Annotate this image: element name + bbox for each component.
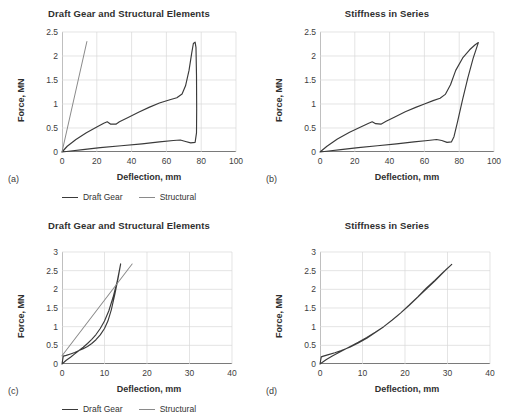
legend-line-draft-gear-icon <box>62 409 78 410</box>
plot-svg-d <box>320 252 490 364</box>
plot-area-b <box>320 32 494 152</box>
x-tick-label: 60 <box>420 156 429 166</box>
x-tick-label: 10 <box>100 368 109 378</box>
legend-label-structural: Structural <box>160 404 196 414</box>
y-axis-ticks-d: 00.511.522.53 <box>286 252 316 364</box>
x-tick-label: 40 <box>385 156 394 166</box>
x-axis-ticks-c: 010203040 <box>62 368 232 382</box>
series-line-structural <box>62 264 132 356</box>
x-axis-label-a: Deflection, mm <box>0 172 258 182</box>
y-axis-label-b: Force, MN <box>274 78 284 122</box>
x-tick-label: 10 <box>358 368 367 378</box>
x-axis-ticks-d: 010203040 <box>320 368 490 382</box>
y-axis-label-a: Force, MN <box>16 78 26 122</box>
y-tick-label: 1 <box>53 99 58 109</box>
y-tick-label: 2.5 <box>46 27 58 37</box>
x-tick-label: 80 <box>196 156 205 166</box>
y-axis-label-d: Force, MN <box>274 294 284 338</box>
legend-item-draft-gear-c: Draft Gear <box>62 404 123 414</box>
x-tick-label: 100 <box>229 156 243 166</box>
y-tick-label: 1.5 <box>304 303 316 313</box>
x-tick-label: 0 <box>318 368 323 378</box>
y-tick-label: 0 <box>53 359 58 369</box>
y-tick-label: 0.5 <box>46 123 58 133</box>
plot-svg-c <box>62 252 232 364</box>
plot-svg-a <box>62 32 236 152</box>
y-tick-label: 1.5 <box>46 303 58 313</box>
legend-a: Draft Gear Structural <box>0 192 258 202</box>
legend-item-draft-gear-a: Draft Gear <box>62 192 123 202</box>
legend-line-structural-icon <box>139 409 155 410</box>
x-axis-ticks-a: 020406080100 <box>62 156 236 170</box>
y-axis-ticks-b: 00.511.522.5 <box>286 32 316 152</box>
plot-area-d <box>320 252 490 364</box>
x-tick-label: 20 <box>400 368 409 378</box>
y-axis-ticks-a: 00.511.522.5 <box>28 32 58 152</box>
y-tick-label: 2.5 <box>304 27 316 37</box>
legend-line-structural-icon <box>139 197 155 198</box>
plot-area-c <box>62 252 232 364</box>
y-tick-label: 2 <box>311 284 316 294</box>
legend-line-draft-gear-icon <box>62 197 78 198</box>
y-tick-label: 1 <box>311 322 316 332</box>
y-tick-label: 0 <box>311 147 316 157</box>
series-line-draft-gear <box>62 264 121 364</box>
plot-svg-b <box>320 32 494 152</box>
x-axis-label-b: Deflection, mm <box>258 172 516 182</box>
chart-title-b: Stiffness in Series <box>258 8 516 19</box>
x-tick-label: 100 <box>487 156 501 166</box>
x-tick-label: 30 <box>185 368 194 378</box>
y-tick-label: 2 <box>53 284 58 294</box>
x-tick-label: 40 <box>227 368 236 378</box>
y-tick-label: 3 <box>311 247 316 257</box>
chart-title-d: Stiffness in Series <box>258 220 516 231</box>
series-line-series-combined <box>320 43 478 152</box>
x-tick-label: 80 <box>454 156 463 166</box>
x-axis-ticks-b: 020406080100 <box>320 156 494 170</box>
chart-panel-a: Draft Gear and Structural Elements 00.51… <box>0 0 258 212</box>
y-tick-label: 2 <box>53 51 58 61</box>
y-tick-label: 3 <box>53 247 58 257</box>
y-tick-label: 0.5 <box>304 340 316 350</box>
x-tick-label: 40 <box>485 368 494 378</box>
chart-panel-c: Draft Gear and Structural Elements 00.51… <box>0 212 258 419</box>
series-line-series-combined <box>320 264 452 364</box>
x-tick-label: 20 <box>350 156 359 166</box>
y-tick-label: 0 <box>311 359 316 369</box>
legend-label-structural: Structural <box>160 192 196 202</box>
panel-tag-b: (b) <box>266 174 277 184</box>
x-tick-label: 40 <box>127 156 136 166</box>
x-tick-label: 20 <box>92 156 101 166</box>
y-tick-label: 2 <box>311 51 316 61</box>
legend-label-draft-gear: Draft Gear <box>83 192 123 202</box>
y-tick-label: 1.5 <box>304 75 316 85</box>
legend-item-structural-a: Structural <box>139 192 196 202</box>
chart-panel-d: Stiffness in Series 00.511.522.53 010203… <box>258 212 516 419</box>
x-axis-label-d: Deflection, mm <box>258 384 516 394</box>
y-axis-label-c: Force, MN <box>16 294 26 338</box>
series-line-draft-gear <box>62 42 197 152</box>
legend-item-structural-c: Structural <box>139 404 196 414</box>
y-tick-label: 2.5 <box>46 266 58 276</box>
panel-tag-a: (a) <box>8 174 19 184</box>
y-tick-label: 0.5 <box>46 340 58 350</box>
panel-tag-c: (c) <box>8 386 19 396</box>
legend-c: Draft Gear Structural <box>0 404 258 414</box>
legend-label-draft-gear: Draft Gear <box>83 404 123 414</box>
chart-title-a: Draft Gear and Structural Elements <box>0 8 258 19</box>
x-tick-label: 0 <box>318 156 323 166</box>
x-axis-label-c: Deflection, mm <box>0 384 258 394</box>
y-tick-label: 1 <box>53 322 58 332</box>
x-tick-label: 20 <box>142 368 151 378</box>
y-tick-label: 0 <box>53 147 58 157</box>
chart-panel-b: Stiffness in Series 00.511.522.5 0204060… <box>258 0 516 212</box>
y-axis-ticks-c: 00.511.522.53 <box>28 252 58 364</box>
panel-tag-d: (d) <box>266 386 277 396</box>
plot-area-a <box>62 32 236 152</box>
x-tick-label: 0 <box>60 368 65 378</box>
chart-title-c: Draft Gear and Structural Elements <box>0 220 258 231</box>
x-tick-label: 60 <box>162 156 171 166</box>
x-tick-label: 30 <box>443 368 452 378</box>
y-tick-label: 1.5 <box>46 75 58 85</box>
y-tick-label: 0.5 <box>304 123 316 133</box>
